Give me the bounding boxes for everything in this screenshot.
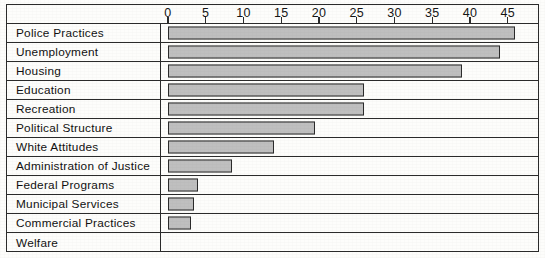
category-row: Unemployment [7, 43, 160, 62]
category-row: Education [7, 81, 160, 100]
category-label: Federal Programs [16, 178, 114, 192]
category-label: Unemployment [16, 45, 98, 59]
bar-recreation [168, 103, 364, 116]
category-row: Housing [7, 62, 160, 81]
axis-tick-mark-40 [469, 17, 470, 24]
bar-row [161, 176, 538, 195]
category-label-column: Police PracticesUnemploymentHousingEduca… [7, 24, 161, 251]
bar-police-practices [168, 27, 515, 40]
bar-row [161, 24, 538, 43]
bar-row [161, 138, 538, 157]
bar-rows [161, 24, 538, 252]
axis-tick-mark-25 [356, 17, 357, 24]
bar-housing [168, 65, 462, 78]
category-row: Welfare [7, 233, 160, 252]
bar-unemployment [168, 46, 500, 59]
category-row: Recreation [7, 100, 160, 119]
bar-white-attitudes [168, 141, 274, 154]
category-label-rows: Police PracticesUnemploymentHousingEduca… [7, 24, 160, 252]
category-label: Administration of Justice [16, 159, 150, 173]
category-label: Police Practices [16, 26, 104, 40]
category-row: White Attitudes [7, 138, 160, 157]
axis-tick-mark-10 [243, 17, 244, 24]
bar-federal-programs [168, 179, 198, 192]
bar-row [161, 100, 538, 119]
category-label: Political Structure [16, 121, 113, 135]
category-row: Police Practices [7, 24, 160, 43]
category-label: Recreation [16, 102, 76, 116]
category-label: Municipal Services [16, 197, 119, 211]
bar-administration-of-justice [168, 160, 232, 173]
bar-commercial-practices [168, 217, 191, 230]
axis-tick-mark-15 [281, 17, 282, 24]
axis-tick-mark-0 [167, 17, 168, 24]
bar-row [161, 233, 538, 252]
category-label: Housing [16, 64, 61, 78]
bar-row [161, 119, 538, 138]
category-label: Commercial Practices [16, 216, 136, 230]
axis-tick-mark-20 [318, 17, 319, 24]
chart-frame: 051015202530354045 Police PracticesUnemp… [6, 4, 539, 252]
plot-area [161, 24, 538, 251]
bar-row [161, 157, 538, 176]
bar-row [161, 214, 538, 233]
category-label: White Attitudes [16, 140, 98, 154]
axis-tick-mark-45 [507, 17, 508, 24]
category-label: Welfare [16, 236, 58, 250]
bar-row [161, 43, 538, 62]
bar-row [161, 81, 538, 100]
bar-chart-screenshot: 051015202530354045 Police PracticesUnemp… [0, 0, 545, 258]
category-label: Education [16, 83, 71, 97]
category-row: Administration of Justice [7, 157, 160, 176]
bar-row [161, 62, 538, 81]
axis-tick-mark-5 [205, 17, 206, 24]
category-row: Political Structure [7, 119, 160, 138]
axis-tick-mark-30 [394, 17, 395, 24]
bar-row [161, 195, 538, 214]
bar-municipal-services [168, 198, 194, 211]
axis-tick-mark-35 [432, 17, 433, 24]
category-row: Commercial Practices [7, 214, 160, 233]
category-row: Municipal Services [7, 195, 160, 214]
bar-education [168, 84, 364, 97]
bar-political-structure [168, 122, 315, 135]
category-row: Federal Programs [7, 176, 160, 195]
x-axis-scale: 051015202530354045 [7, 5, 538, 24]
